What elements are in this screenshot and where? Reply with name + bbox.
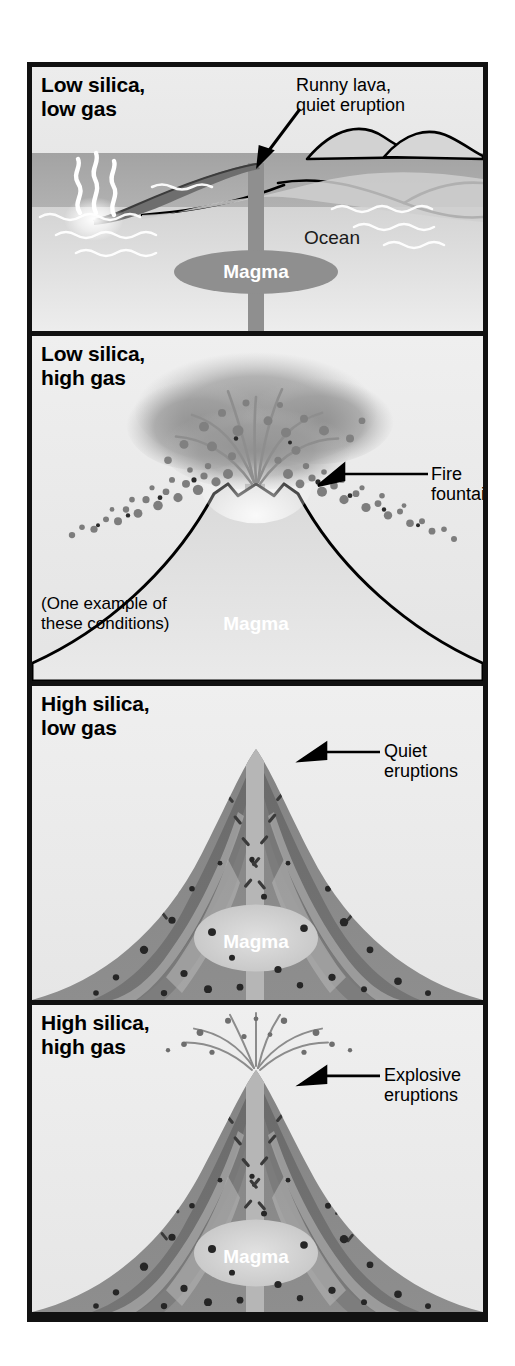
eruption-style-figure: Low silica, low gas Runny lava, quiet er… (27, 62, 488, 1322)
panel-low-silica-low-gas: Low silica, low gas Runny lava, quiet er… (32, 67, 483, 331)
callout-explosive-eruptions: Explosive eruptions (384, 1065, 461, 1106)
callout-runny-lava: Runny lava, quiet eruption (296, 75, 405, 116)
panel-title: Low silica, low gas (41, 73, 145, 120)
conduit (248, 163, 264, 331)
panel-high-silica-low-gas: High silica, low gas Quiet eruptions Mag… (32, 681, 483, 1000)
panel-low-silica-high-gas: Low silica, high gas Fire fountain (One … (32, 331, 483, 681)
panel-title: Low silica, high gas (41, 342, 145, 389)
panel-title: High silica, high gas (41, 1011, 149, 1058)
panel-title: High silica, low gas (41, 692, 149, 739)
panel-high-silica-high-gas: High silica, high gas Explosive eruption… (32, 1000, 483, 1312)
panel-note: (One example of these conditions) (41, 594, 170, 634)
callout-quiet-eruptions: Quiet eruptions (384, 741, 458, 782)
callout-fire-fountain: Fire fountain (431, 464, 483, 505)
ocean-label: Ocean (304, 227, 360, 249)
magma-label: Magma (223, 261, 288, 283)
magma-label: Magma (223, 1246, 288, 1268)
magma-label: Magma (223, 613, 288, 635)
magma-label: Magma (223, 931, 288, 953)
